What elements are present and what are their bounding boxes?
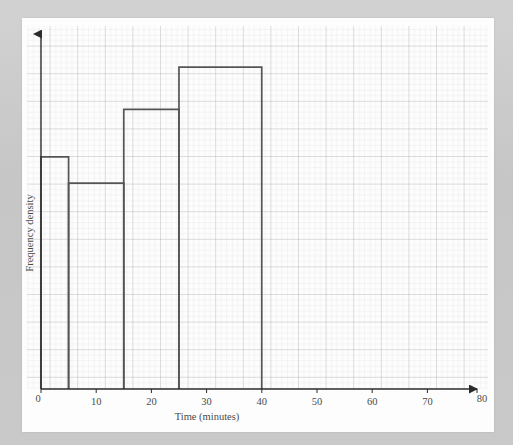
chart-svg: 0 10 20 30 40 50 60 70 80 Time (minutes)… xyxy=(22,18,494,432)
x-tick-label-70: 70 xyxy=(422,396,433,407)
x-tick-label-40: 40 xyxy=(257,396,268,407)
histogram-chart: 0 10 20 30 40 50 60 70 80 Time (minutes)… xyxy=(22,18,494,432)
x-tick-label-20: 20 xyxy=(146,396,157,407)
x-axis-title: Time (minutes) xyxy=(175,411,240,423)
graph-paper-sheet: 0 10 20 30 40 50 60 70 80 Time (minutes)… xyxy=(22,18,494,432)
x-tick-label-50: 50 xyxy=(312,396,323,407)
x-tick-label-0: 0 xyxy=(35,393,40,404)
x-axis-tick-labels: 0 10 20 30 40 50 60 70 80 xyxy=(35,393,487,407)
grid-area xyxy=(27,26,488,389)
y-axis-title: Frequency density xyxy=(24,194,35,272)
x-tick-label-60: 60 xyxy=(367,396,378,407)
page-bleed-text xyxy=(40,0,460,13)
x-tick-label-80: 80 xyxy=(477,393,488,404)
x-tick-label-10: 10 xyxy=(91,396,102,407)
x-tick-label-30: 30 xyxy=(201,396,212,407)
